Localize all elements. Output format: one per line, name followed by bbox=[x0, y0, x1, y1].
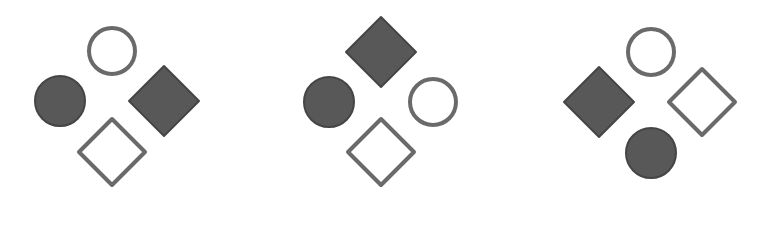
filled-circle-shape bbox=[35, 76, 85, 126]
panel-3 bbox=[564, 29, 735, 178]
filled-circle-shape bbox=[304, 77, 354, 127]
panel-1 bbox=[35, 28, 199, 185]
puzzle-figure bbox=[0, 0, 779, 231]
outline-circle-shape bbox=[628, 29, 674, 75]
filled-diamond-shape bbox=[129, 66, 199, 136]
outline-diamond-shape bbox=[348, 119, 414, 185]
filled-circle-shape bbox=[626, 128, 676, 178]
outline-circle-shape bbox=[89, 28, 135, 74]
outline-diamond-shape bbox=[79, 119, 145, 185]
panel-2 bbox=[304, 17, 456, 185]
filled-diamond-shape bbox=[346, 17, 416, 87]
filled-diamond-shape bbox=[564, 67, 634, 137]
outline-diamond-shape bbox=[669, 69, 735, 135]
outline-circle-shape bbox=[410, 79, 456, 125]
